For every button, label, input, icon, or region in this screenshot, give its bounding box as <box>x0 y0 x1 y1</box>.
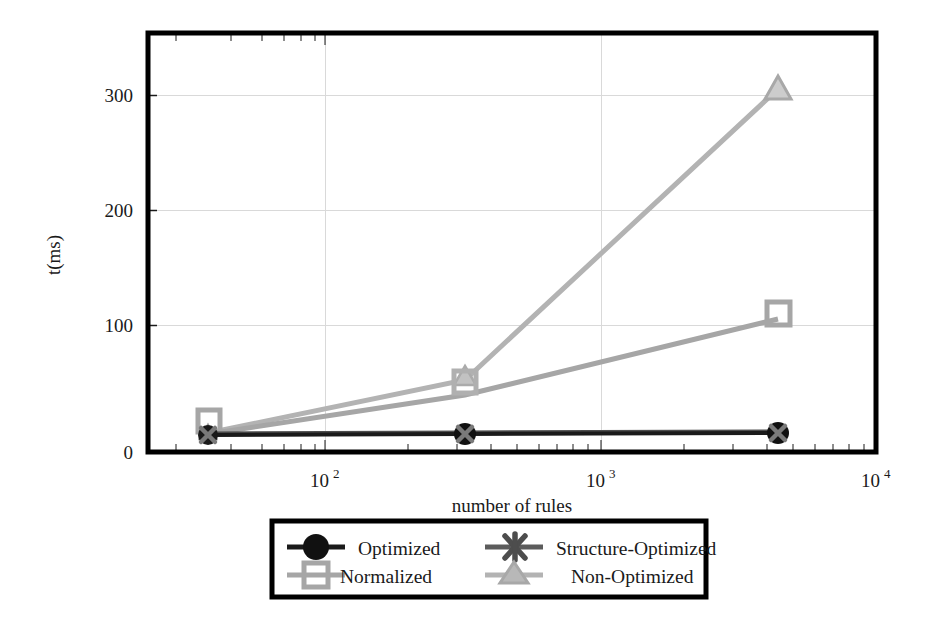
x-tick-base-1: 10 <box>310 470 329 491</box>
x-tick-base-3: 10 <box>861 470 880 491</box>
performance-line-chart: 0 100 200 300 t(ms) 10 2 10 3 10 4 numbe… <box>0 0 940 623</box>
x-axis-title: number of rules <box>452 495 572 516</box>
legend-entry-optimized[interactable]: Optimized <box>287 534 441 560</box>
series-line-optimized <box>208 433 778 435</box>
chart-legend: Optimized Structure-Optimized Normalized <box>272 521 717 597</box>
chart-figure: 0 100 200 300 t(ms) 10 2 10 3 10 4 numbe… <box>0 0 940 623</box>
circle-filled-black-icon <box>303 534 329 560</box>
x-tick-exp-2: 3 <box>609 466 616 481</box>
y-tick-label-300: 300 <box>105 85 134 106</box>
x-tick-base-2: 10 <box>586 470 605 491</box>
legend-entry-non-optimized[interactable]: Non-Optimized <box>485 562 694 587</box>
y-tick-label-200: 200 <box>105 200 134 221</box>
legend-label-normalized: Normalized <box>340 566 432 587</box>
legend-label-non-optimized: Non-Optimized <box>571 566 694 587</box>
y-tick-label-0: 0 <box>124 442 134 463</box>
y-tick-label-100: 100 <box>105 315 134 336</box>
legend-entry-structure-optimized[interactable]: Structure-Optimized <box>485 534 717 560</box>
y-axis-title: t(ms) <box>43 235 65 275</box>
legend-label-structure-optimized: Structure-Optimized <box>556 538 717 559</box>
x-tick-exp-3: 4 <box>884 466 891 481</box>
x-tick-exp-1: 2 <box>333 466 340 481</box>
legend-label-optimized: Optimized <box>358 538 441 559</box>
